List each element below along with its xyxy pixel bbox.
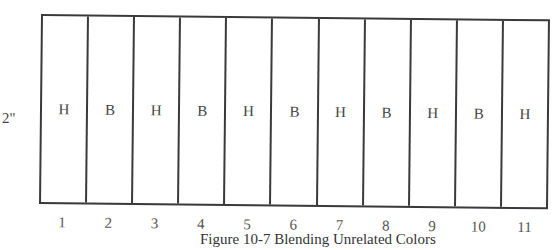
- diagram-stage: H B H B H B H B H B H 1 2 3 4 5 6 7 8 9 …: [0, 0, 559, 250]
- stripe-cell-11: H: [502, 21, 548, 207]
- stripe-cell-7: H: [318, 19, 366, 205]
- stripe-cell-2: B: [87, 17, 135, 203]
- stripe-number-2: 2: [85, 214, 131, 231]
- figure-caption: Figure 10-7 Blending Unrelated Colors: [200, 231, 436, 248]
- stripe-number-3: 3: [131, 215, 177, 232]
- stripe-cell-5: H: [225, 18, 273, 204]
- stripe-cell-3: H: [133, 17, 181, 203]
- stripe-cell-1: H: [41, 16, 89, 202]
- stripe-cell-9: H: [410, 20, 458, 206]
- stripe-number-11: 11: [501, 219, 547, 236]
- stripe-cell-10: B: [456, 20, 504, 206]
- stripe-number-1: 1: [39, 214, 85, 231]
- stripe-cell-6: B: [271, 18, 319, 204]
- stripe-cell-8: B: [364, 19, 412, 205]
- stripe-cell-4: B: [179, 17, 227, 203]
- stripe-grid: H B H B H B H B H B H: [39, 14, 550, 209]
- stripe-number-10: 10: [455, 218, 501, 235]
